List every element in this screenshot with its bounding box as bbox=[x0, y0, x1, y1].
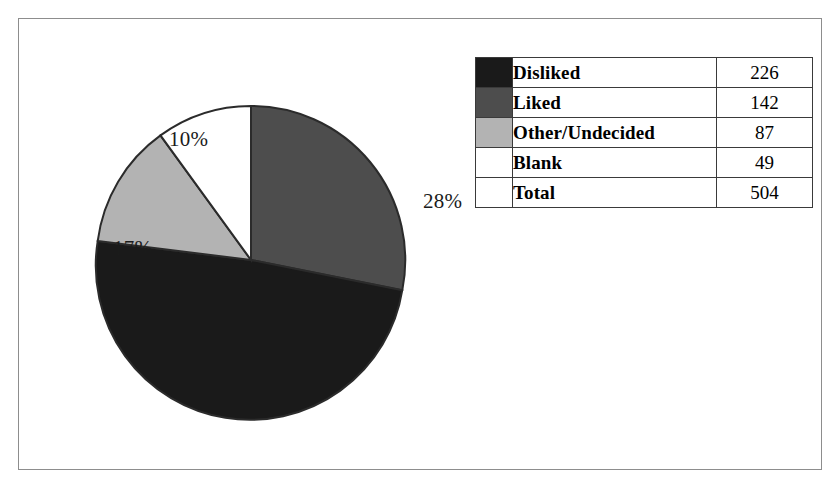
table-row: Blank 49 bbox=[476, 148, 813, 178]
legend-value-disliked: 226 bbox=[717, 58, 813, 88]
legend-table: Disliked 226 Liked 142 Other/Undecided 8… bbox=[475, 57, 813, 208]
legend-swatch-cell-blank bbox=[476, 148, 513, 178]
pie-label-other-undecided: 17% bbox=[113, 236, 152, 261]
legend-spacer-cell bbox=[476, 178, 513, 208]
figure-frame: 10% 28% 17% 45% Disliked 226 Liked 142 bbox=[18, 18, 822, 470]
legend-label-liked: Liked bbox=[513, 88, 717, 118]
legend-label-other-undecided: Other/Undecided bbox=[513, 118, 717, 148]
legend-swatch-cell-liked bbox=[476, 88, 513, 118]
legend-swatch-cell-disliked bbox=[476, 58, 513, 88]
pie-label-liked: 28% bbox=[423, 189, 462, 214]
pie-chart-svg bbox=[79, 89, 429, 439]
legend-swatch-blank bbox=[476, 148, 512, 177]
legend-value-total: 504 bbox=[717, 178, 813, 208]
pie-chart: 10% 28% 17% 45% bbox=[79, 89, 429, 439]
legend-swatch-other-undecided bbox=[476, 118, 512, 147]
legend-swatch-liked bbox=[476, 88, 512, 117]
table-row: Liked 142 bbox=[476, 88, 813, 118]
legend-label-total: Total bbox=[513, 178, 717, 208]
legend-value-liked: 142 bbox=[717, 88, 813, 118]
legend-value-blank: 49 bbox=[717, 148, 813, 178]
legend-label-blank: Blank bbox=[513, 148, 717, 178]
table-row: Disliked 226 bbox=[476, 58, 813, 88]
table-row-total: Total 504 bbox=[476, 178, 813, 208]
legend-value-other-undecided: 87 bbox=[717, 118, 813, 148]
legend-label-disliked: Disliked bbox=[513, 58, 717, 88]
pie-label-blank: 10% bbox=[169, 127, 208, 152]
legend-swatch-disliked bbox=[476, 58, 512, 87]
pie-slice-liked[interactable] bbox=[251, 106, 405, 290]
legend-swatch-cell-other-undecided bbox=[476, 118, 513, 148]
table-row: Other/Undecided 87 bbox=[476, 118, 813, 148]
